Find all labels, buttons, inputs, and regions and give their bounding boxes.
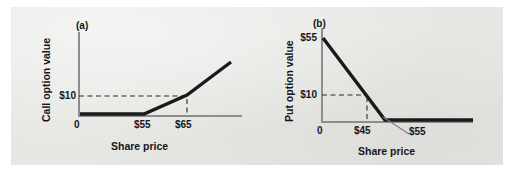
x-tick-label-call-55: $55 bbox=[134, 119, 151, 130]
x-tick-label-put-45: $45 bbox=[354, 125, 371, 136]
x-tick-label-call-65: $65 bbox=[175, 119, 192, 130]
origin-label-a: 0 bbox=[74, 119, 80, 130]
panel-call-option: (a) $10 0 $55 $65 Share price Call optio… bbox=[0, 0, 257, 172]
put-payoff-line bbox=[323, 38, 473, 120]
x-axis-title-a: Share price bbox=[111, 140, 168, 152]
figure-container: (a) $10 0 $55 $65 Share price Call optio… bbox=[0, 0, 514, 172]
panel-put-option: (b) $55 $10 0 $45 $55 Share price Put op… bbox=[257, 0, 514, 172]
y-axis-title-b: Put option value bbox=[283, 40, 295, 122]
x-axis-title-b: Share price bbox=[358, 145, 415, 157]
origin-label-b: 0 bbox=[317, 125, 323, 136]
x-tick-label-put-55: $55 bbox=[409, 126, 426, 137]
y-axis-title-a: Call option value bbox=[40, 38, 52, 122]
call-payoff-line bbox=[80, 62, 231, 114]
